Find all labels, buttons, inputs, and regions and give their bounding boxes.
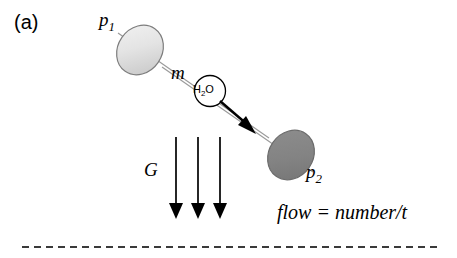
flow-direction-arrow xyxy=(220,101,256,134)
panel-label: (a) xyxy=(14,12,38,32)
tube-cap-p1 xyxy=(107,16,173,84)
label-pressure-p2-symbol: p xyxy=(306,161,316,182)
label-pressure-p2-subscript: 2 xyxy=(316,171,322,186)
water-molecule-label: H2O xyxy=(193,84,214,98)
gravity-arrow-1 xyxy=(169,137,183,219)
water-molecule-h: H xyxy=(193,83,201,95)
label-pressure-p2: p2 xyxy=(306,162,322,186)
label-pressure-p1-subscript: 1 xyxy=(109,19,115,34)
label-mass: m xyxy=(171,63,185,82)
flow-equation: flow = number/t xyxy=(277,202,407,222)
gravity-arrows xyxy=(169,137,227,219)
gravity-arrow-2 xyxy=(191,137,205,219)
label-pressure-p1: p1 xyxy=(99,10,115,34)
label-gravity: G xyxy=(144,160,158,179)
gravity-arrow-3 xyxy=(213,137,227,219)
water-molecule-o: O xyxy=(205,83,214,95)
figure-panel-a: (a) p1 p2 m G H2O flow = number/t xyxy=(0,0,457,258)
label-pressure-p1-symbol: p xyxy=(99,9,109,30)
